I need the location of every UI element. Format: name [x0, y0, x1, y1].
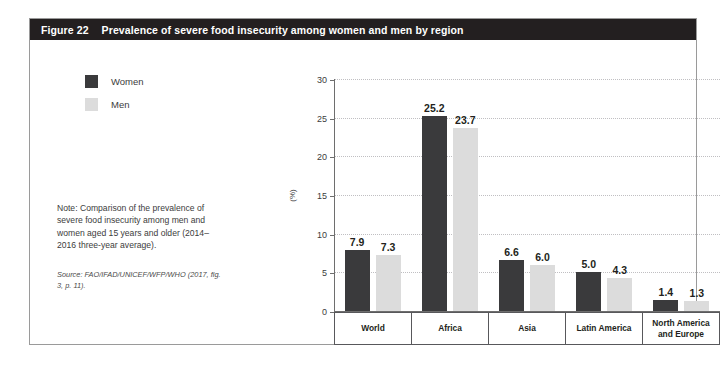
bar-slot-men: 1.3 — [684, 79, 709, 311]
legend-label-men: Men — [111, 99, 129, 110]
bar-men[interactable] — [453, 128, 478, 311]
y-axis-title: (%) — [288, 189, 297, 201]
bar-group: 25.223.7 — [411, 79, 488, 311]
bar-slot-men: 4.3 — [607, 79, 632, 311]
bar-group: 6.66.0 — [488, 79, 565, 311]
chart-legend: Women Men — [85, 75, 247, 111]
x-axis-category-label: Asia — [489, 313, 566, 344]
figure-number: Figure 22 — [41, 24, 89, 36]
bar-value-label: 23.7 — [455, 114, 475, 126]
legend-item-men: Men — [85, 98, 247, 111]
bar-value-label: 1.4 — [659, 286, 674, 298]
bar-value-label: 25.2 — [424, 102, 444, 114]
legend-label-women: Women — [111, 76, 144, 87]
bar-slot-women: 1.4 — [653, 79, 678, 311]
x-axis-category-label: Latin America — [566, 313, 643, 344]
figure-note: Note: Comparison of the prevalence of se… — [57, 202, 217, 252]
y-axis-tick-label: 5 — [322, 268, 327, 278]
legend-swatch-women — [85, 75, 98, 88]
bar-group: 7.97.3 — [334, 79, 411, 311]
bar-value-label: 7.3 — [381, 241, 396, 253]
bar-men[interactable] — [530, 265, 555, 311]
bar-value-label: 6.0 — [535, 251, 550, 263]
figure-title-bar: Figure 22 Prevalence of severe food inse… — [30, 19, 696, 40]
legend-swatch-men — [85, 98, 98, 111]
bar-women[interactable] — [345, 250, 370, 311]
bar-women[interactable] — [422, 116, 447, 311]
figure-sidebar: Women Men Note: Comparison of the preval… — [57, 75, 247, 291]
bar-value-label: 5.0 — [581, 258, 596, 270]
y-axis-tick-label: 10 — [317, 230, 327, 240]
bar-value-label: 4.3 — [612, 264, 627, 276]
bar-slot-women: 25.2 — [422, 79, 447, 311]
bar-group: 5.04.3 — [566, 79, 643, 311]
y-axis-tick-label: 0 — [322, 307, 327, 317]
x-axis-category-label: North America and Europe — [643, 313, 719, 344]
bar-women[interactable] — [576, 272, 601, 311]
bar-men[interactable] — [607, 278, 632, 311]
chart-bars: 7.97.325.223.76.66.05.04.31.41.3 — [334, 79, 720, 311]
x-axis-category-label: World — [335, 313, 412, 344]
bar-value-label: 6.6 — [504, 246, 519, 258]
bar-slot-women: 6.6 — [499, 79, 524, 311]
x-axis-category-label: Africa — [412, 313, 489, 344]
bar-men[interactable] — [684, 301, 709, 311]
bar-women[interactable] — [653, 300, 678, 311]
y-axis-tick-label: 20 — [317, 152, 327, 162]
figure-source: Source: FAO/IFAD/UNICEF/WFP/WHO (2017, f… — [57, 269, 222, 291]
bar-group: 1.41.3 — [643, 79, 720, 311]
bar-slot-women: 5.0 — [576, 79, 601, 311]
chart-plot-area: (%) 051015202530 7.97.325.223.76.66.05.0… — [278, 55, 688, 335]
y-axis-tick-label: 25 — [317, 114, 327, 124]
bar-slot-men: 6.0 — [530, 79, 555, 311]
y-axis-tick-label: 15 — [317, 191, 327, 201]
y-axis-tick-label: 30 — [317, 75, 327, 85]
legend-item-women: Women — [85, 75, 247, 88]
x-axis-category-strip: WorldAfricaAsiaLatin AmericaNorth Americ… — [334, 312, 720, 345]
bar-value-label: 7.9 — [350, 236, 365, 248]
bar-women[interactable] — [499, 260, 524, 311]
bar-slot-men: 23.7 — [453, 79, 478, 311]
bar-men[interactable] — [376, 255, 401, 311]
bar-slot-men: 7.3 — [376, 79, 401, 311]
bar-value-label: 1.3 — [690, 287, 705, 299]
figure-title: Prevalence of severe food insecurity amo… — [102, 24, 464, 36]
figure-card: Figure 22 Prevalence of severe food inse… — [29, 18, 697, 345]
bar-slot-women: 7.9 — [345, 79, 370, 311]
